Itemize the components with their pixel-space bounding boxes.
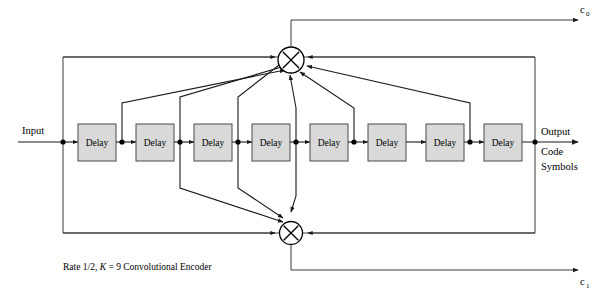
c0-subscript: 0 bbox=[586, 10, 590, 18]
convolutional-encoder-diagram: Delay Delay Delay Delay Delay Delay Dela… bbox=[0, 0, 609, 293]
caption-before: Rate 1/2, bbox=[63, 262, 100, 272]
c1-base: c bbox=[580, 276, 585, 287]
c0-base: c bbox=[580, 4, 585, 15]
c0-label: c 0 bbox=[580, 4, 590, 18]
diagram-text-labels: Input Output Code Symbols c 0 c 1 Rate 1… bbox=[0, 0, 609, 293]
c1-label: c 1 bbox=[580, 276, 590, 290]
output-label-line2: Code bbox=[541, 146, 564, 157]
caption-after: = 9 Convolutional Encoder bbox=[106, 262, 212, 272]
figure-caption: Rate 1/2, K = 9 Convolutional Encoder bbox=[63, 262, 212, 272]
c1-subscript: 1 bbox=[586, 282, 590, 290]
input-label: Input bbox=[22, 125, 44, 136]
output-label-line1: Output bbox=[541, 126, 570, 137]
output-label-line3: Symbols bbox=[541, 161, 578, 172]
